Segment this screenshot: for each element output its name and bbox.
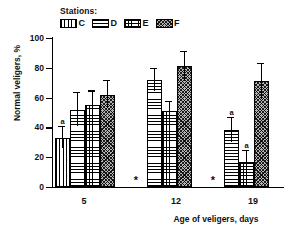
legend-label-f: F	[174, 19, 180, 28]
legend-swatch-d-icon	[92, 19, 109, 28]
y-tick-0	[46, 187, 52, 188]
sig-letter-19-d: a	[226, 109, 238, 117]
sig-letter-5-c: a	[57, 118, 69, 126]
sig-letter-19-e: a	[241, 142, 253, 150]
legend-item-c: C	[60, 19, 85, 28]
errorbar-19-f	[261, 64, 262, 99]
y-tick-label-60: 60	[20, 94, 44, 103]
x-tick-label-19: 19	[233, 196, 273, 206]
legend-swatch-f-icon	[156, 19, 173, 28]
absent-marker-12-c: *	[130, 176, 142, 184]
legend-items: C D E F	[60, 19, 260, 28]
errorbar-5-c	[62, 127, 63, 148]
errorbar-5-e	[92, 92, 93, 119]
errorbar-12-d	[154, 69, 155, 91]
errorbar-cap-5-f	[103, 80, 110, 81]
errorbar-19-d	[231, 118, 232, 142]
legend-item-d: D	[92, 19, 117, 28]
x-tick-label-5: 5	[64, 196, 104, 206]
legend-swatch-c-icon	[60, 19, 77, 28]
errorbar-cap-5-d	[73, 92, 80, 93]
bar-chart: Stations: C D E F 100	[0, 0, 292, 239]
legend-title: Stations:	[60, 6, 260, 16]
y-tick-label-40: 40	[20, 123, 44, 132]
errorbar-12-e	[169, 102, 170, 120]
errorbar-cap-5-e	[88, 90, 95, 91]
errorbar-cap-12-d	[150, 68, 157, 69]
errorbar-5-f	[107, 81, 108, 108]
errorbar-12-f	[184, 52, 185, 81]
y-tick-label-100: 100	[20, 34, 44, 43]
absent-marker-19-c: *	[207, 176, 219, 184]
errorbar-cap-19-d	[227, 117, 234, 118]
errorbar-cap-12-e	[165, 101, 172, 102]
x-axis-title: Age of veligers, days	[146, 214, 286, 224]
bar-5-f	[100, 95, 115, 187]
errorbar-5-d	[77, 93, 78, 126]
legend-swatch-e-icon	[124, 19, 141, 28]
x-tick-label-12: 12	[156, 196, 196, 206]
errorbar-cap-12-f	[180, 51, 187, 52]
bar-12-f	[177, 66, 192, 187]
legend-item-e: E	[124, 19, 149, 28]
y-tick-label-0: 0	[20, 183, 44, 192]
y-axis-title: Normal veligers, %	[12, 28, 22, 138]
errorbar-cap-19-e	[242, 150, 249, 151]
errorbar-19-e	[246, 151, 247, 172]
bar-12-e	[162, 111, 177, 187]
y-tick-label-20: 20	[20, 153, 44, 162]
x-axis-line	[52, 187, 284, 188]
legend-item-f: F	[156, 19, 180, 28]
legend-label-d: D	[111, 19, 118, 28]
errorbar-cap-5-c	[58, 126, 65, 127]
plot-area: a * * a a	[52, 38, 282, 187]
bar-12-d	[147, 80, 162, 187]
legend-label-c: C	[79, 19, 86, 28]
chart-legend: Stations: C D E F	[60, 6, 260, 28]
y-tick-label-80: 80	[20, 64, 44, 73]
errorbar-cap-19-f	[257, 63, 264, 64]
legend-label-e: E	[143, 19, 149, 28]
